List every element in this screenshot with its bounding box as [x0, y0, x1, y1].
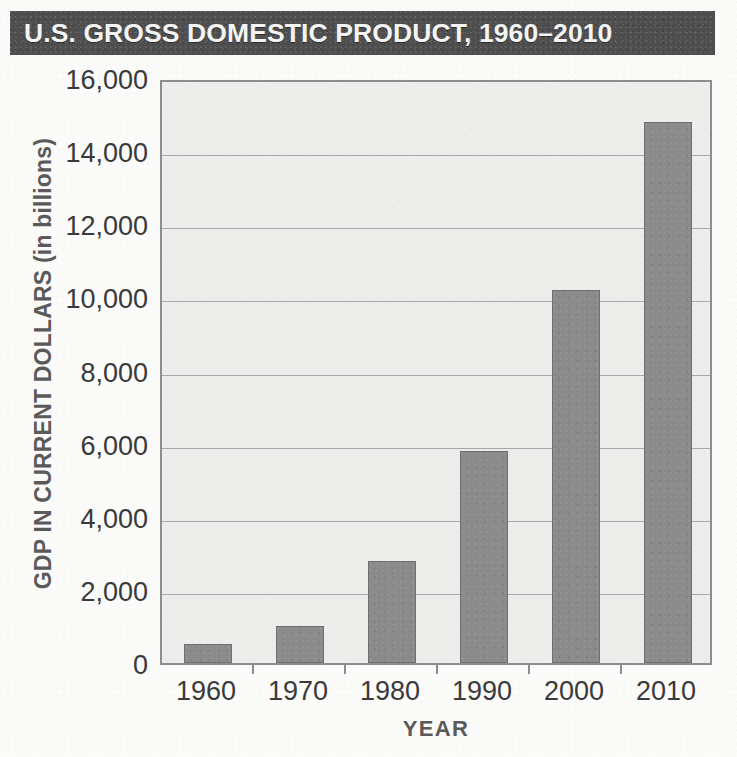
plot-area	[160, 80, 712, 665]
x-axis-tick-label: 1990	[436, 676, 528, 707]
x-axis-tick	[528, 665, 530, 674]
x-axis-tick-label: 1970	[252, 676, 344, 707]
y-axis-tick-labels: 02,0004,0006,0008,00010,00012,00014,0001…	[0, 80, 160, 665]
x-axis-title: YEAR	[160, 716, 712, 742]
y-axis-tick-label: 0	[15, 650, 160, 681]
x-axis-tick-label: 2010	[620, 676, 712, 707]
x-axis-tick-label: 1960	[160, 676, 252, 707]
x-axis-tick	[344, 665, 346, 674]
y-axis-tick-label: 6,000	[15, 430, 160, 461]
chart-title-banner: U.S. GROSS DOMESTIC PRODUCT, 1960–2010	[10, 11, 715, 55]
y-axis-tick-label: 14,000	[15, 138, 160, 169]
x-axis-ticks	[160, 665, 712, 674]
y-axis-tick-label: 10,000	[15, 284, 160, 315]
x-axis-tick	[620, 665, 622, 674]
y-axis-tick-label: 4,000	[15, 503, 160, 534]
bar-series	[162, 82, 710, 663]
y-axis-tick-label: 12,000	[15, 211, 160, 242]
x-axis-tick	[252, 665, 254, 674]
y-axis-tick-label: 16,000	[15, 65, 160, 96]
y-axis-tick-label: 2,000	[15, 576, 160, 607]
chart-title: U.S. GROSS DOMESTIC PRODUCT, 1960–2010	[24, 18, 612, 49]
bar-1960	[184, 644, 232, 663]
x-axis-tick	[436, 665, 438, 674]
bar-1990	[460, 451, 508, 663]
x-axis-tick-labels: 196019701980199020002010	[160, 676, 712, 712]
x-axis-tick-label: 1980	[344, 676, 436, 707]
bar-1970	[276, 626, 324, 663]
x-axis-tick-label: 2000	[528, 676, 620, 707]
y-axis-tick-label: 8,000	[15, 357, 160, 388]
bar-2000	[552, 290, 600, 663]
bar-2010	[644, 122, 692, 663]
bar-1980	[368, 561, 416, 663]
